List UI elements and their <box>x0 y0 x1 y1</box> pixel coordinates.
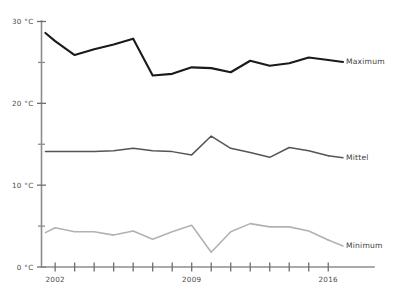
x-tick-label: 2002 <box>45 275 65 284</box>
legend-connector-mittel <box>328 156 343 158</box>
legend-label-minimum: Minimum <box>346 241 383 250</box>
legend-label-mittel: Mittel <box>346 153 369 162</box>
x-tick-label-group: 200220092016 <box>45 275 338 284</box>
legend-connector-maximum <box>328 60 343 62</box>
x-axis: 200220092016 <box>42 263 375 285</box>
series-line-minimum <box>45 224 328 253</box>
series-line-mittel <box>45 136 328 157</box>
y-tick-label: 20 °C <box>12 99 34 108</box>
x-tick-label: 2016 <box>318 275 338 284</box>
x-tick-label: 2009 <box>182 275 202 284</box>
y-axis: 0 °C10 °C20 °C30 °C <box>12 17 46 272</box>
temperature-line-chart: 0 °C10 °C20 °C30 °C 200220092016 Maximum… <box>0 0 398 302</box>
y-tick-label-group: 0 °C10 °C20 °C30 °C <box>12 17 34 272</box>
legend-label-maximum: Maximum <box>346 57 385 66</box>
legend-group: MaximumMittelMinimum <box>328 57 385 250</box>
series-line-maximum <box>45 33 328 76</box>
y-tick-label: 10 °C <box>12 181 34 190</box>
legend-connector-minimum <box>328 240 343 246</box>
chart-canvas: 0 °C10 °C20 °C30 °C 200220092016 Maximum… <box>0 0 398 302</box>
series-group <box>45 33 328 252</box>
y-tick-label: 30 °C <box>12 17 34 26</box>
y-tick-label: 0 °C <box>17 263 34 272</box>
